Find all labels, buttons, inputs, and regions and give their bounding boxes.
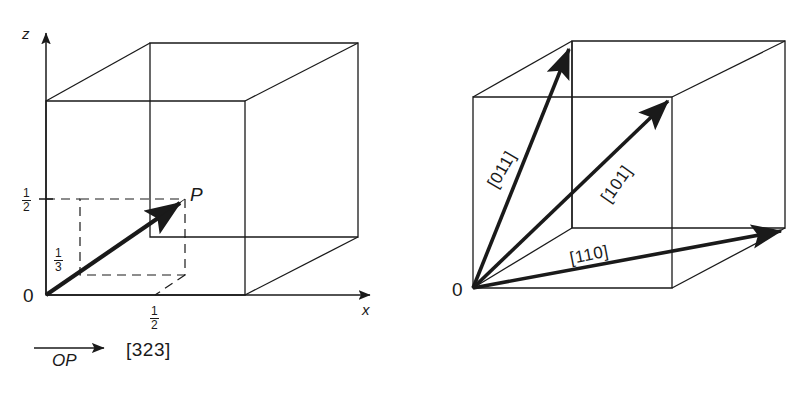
legend-indices-label: [323] [126, 340, 171, 359]
x-axis-label: x [362, 302, 370, 317]
origin-label-right: 0 [452, 280, 463, 299]
origin-label-left: 0 [23, 286, 34, 305]
figure-canvas: z x 0 P 1 2 1 3 1 2 OP [323] 0 [011] [10… [0, 0, 803, 395]
tick-z-half-denominator: 2 [22, 201, 31, 214]
tick-label-x-half: 1 2 [150, 305, 159, 332]
tick-x-half-denominator: 2 [150, 319, 159, 332]
diagram-svg [0, 0, 803, 395]
edge-br [245, 237, 358, 295]
tick-y-third-numerator: 1 [54, 247, 63, 261]
tick-y-third-denominator: 3 [54, 261, 63, 274]
edge-tr [245, 43, 358, 101]
left-cell-wireframe [46, 43, 358, 295]
back-face-left [150, 43, 358, 237]
right-cell-wireframe [473, 41, 785, 288]
edge-br-r [672, 228, 785, 288]
z-axis-label: z [22, 26, 30, 41]
edge-tl [46, 43, 150, 101]
edge-tl-r [473, 41, 572, 97]
tick-label-y-third: 1 3 [54, 247, 63, 274]
point-P-label: P [190, 185, 203, 204]
tick-x-half-numerator: 1 [150, 305, 159, 319]
edge-tr-r [672, 41, 785, 97]
tick-label-z-half: 1 2 [22, 187, 31, 214]
dashed-box-to-x [155, 275, 185, 295]
vector-011 [473, 49, 569, 288]
vector-OP [46, 199, 185, 295]
front-face-left [46, 101, 245, 295]
tick-z-half-numerator: 1 [22, 187, 31, 201]
legend-vector-label: OP [52, 352, 77, 369]
